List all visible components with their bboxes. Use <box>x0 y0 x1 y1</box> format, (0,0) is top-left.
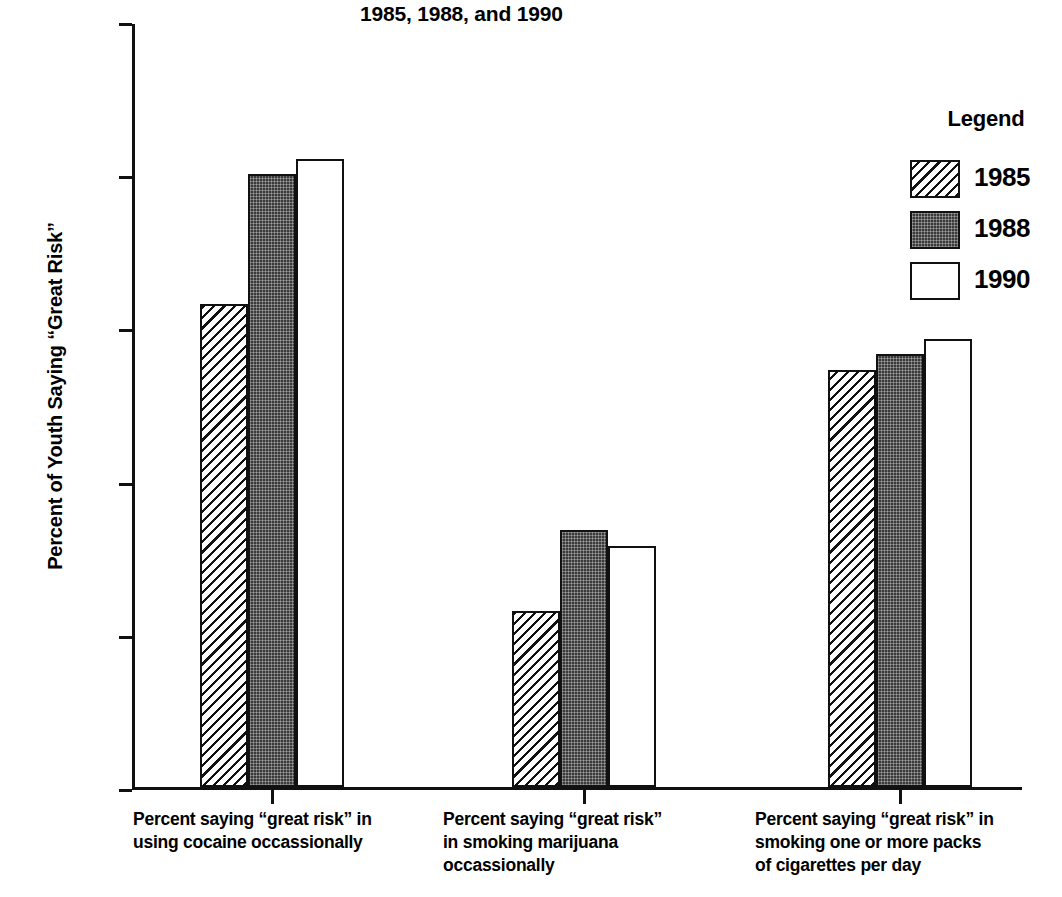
y-axis-label: Percent of Youth Saying “Great Risk” <box>44 116 67 676</box>
bar-chart-figure: 1985, 1988, and 1990 Percent of Youth Sa… <box>0 0 1062 897</box>
bar-1990-group-2 <box>608 546 656 787</box>
legend-item-1985[interactable]: 1985 <box>896 160 1062 200</box>
category-label-cocaine: Percent saying “great risk” in using coc… <box>133 808 433 854</box>
y-tick-40 <box>119 483 132 486</box>
bar-1988-group-1 <box>248 174 296 787</box>
x-axis-line <box>132 787 1022 790</box>
legend-label-1988: 1988 <box>974 213 1030 244</box>
bar-1985-group-1 <box>200 304 248 787</box>
legend-title: Legend <box>924 106 1048 132</box>
y-tick-100 <box>119 23 132 26</box>
category-label-marijuana: Percent saying “great risk” in smoking m… <box>443 808 723 876</box>
category-label-cigarettes: Percent saying “great risk” in smoking o… <box>755 808 1055 876</box>
legend-item-1988[interactable]: 1988 <box>896 211 1062 251</box>
y-tick-20 <box>119 636 132 639</box>
y-axis-line <box>132 24 135 790</box>
legend: Legend 1985 1988 1990 <box>896 106 1062 312</box>
y-tick-0 <box>119 789 132 792</box>
legend-label-1985: 1985 <box>974 162 1030 193</box>
x-tick-group-1 <box>271 790 274 804</box>
x-tick-group-3 <box>899 790 902 804</box>
chart-title: 1985, 1988, and 1990 <box>360 2 760 26</box>
legend-swatch-1985 <box>910 160 960 198</box>
bar-1988-group-3 <box>876 354 924 787</box>
bar-1985-group-3 <box>828 370 876 787</box>
x-tick-group-2 <box>583 790 586 804</box>
bar-1985-group-2 <box>512 611 560 787</box>
plot-area: 020406080100 <box>132 24 1022 790</box>
bar-1990-group-3 <box>924 339 972 787</box>
y-tick-60 <box>119 329 132 332</box>
y-tick-80 <box>119 176 132 179</box>
legend-label-1990: 1990 <box>974 264 1030 295</box>
bar-1988-group-2 <box>560 530 608 787</box>
bar-1990-group-1 <box>296 159 344 787</box>
legend-swatch-1990 <box>910 262 960 300</box>
legend-swatch-1988 <box>910 211 960 249</box>
legend-item-1990[interactable]: 1990 <box>896 262 1062 302</box>
